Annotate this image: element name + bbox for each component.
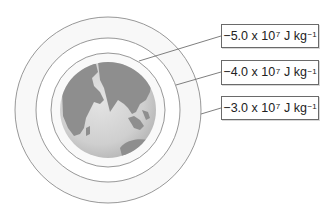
potential-label-inner: −5.0 x 107 J kg−1 bbox=[221, 24, 319, 48]
potential-unit: J kg bbox=[284, 66, 307, 79]
potential-value: −3.0 x 10 bbox=[223, 102, 275, 115]
leader-line-outer bbox=[201, 108, 221, 114]
potential-unit: J kg bbox=[284, 30, 307, 43]
power-exponent: 7 bbox=[276, 68, 280, 76]
unit-exponent: −1 bbox=[308, 103, 317, 111]
power-exponent: 7 bbox=[276, 103, 280, 111]
potential-value: −4.0 x 10 bbox=[223, 66, 275, 79]
potential-unit: J kg bbox=[284, 102, 307, 115]
unit-exponent: −1 bbox=[308, 68, 317, 76]
potential-label-middle: −4.0 x 107 J kg−1 bbox=[221, 60, 319, 85]
unit-exponent: −1 bbox=[308, 31, 317, 39]
potential-value: −5.0 x 10 bbox=[223, 30, 275, 43]
potential-label-outer: −3.0 x 107 J kg−1 bbox=[221, 96, 319, 120]
power-exponent: 7 bbox=[276, 31, 280, 39]
